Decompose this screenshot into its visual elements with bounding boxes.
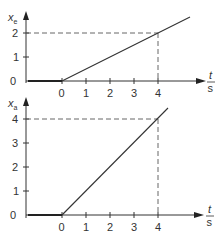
x-tick-label: 0 xyxy=(59,221,65,233)
series-ramp-xa xyxy=(62,108,168,215)
x-tick-label: 0 xyxy=(59,87,65,99)
y-tick-label: 2 xyxy=(12,27,18,39)
chart-bottom: 0 1 2 3 4 0 1 2 3 4 xa t s xyxy=(7,97,214,233)
x-tick-label: 2 xyxy=(107,221,113,233)
y-axis-arrow-icon xyxy=(23,11,29,20)
y-tick-label: 2 xyxy=(12,161,18,173)
x-tick-label: 4 xyxy=(155,87,161,99)
x-tick-label: 4 xyxy=(155,221,161,233)
chart-top: 0 1 2 0 1 2 3 4 xe t s xyxy=(7,11,215,99)
x-axis-label-den: s xyxy=(208,82,214,94)
x-axis-label-num: t xyxy=(208,203,212,215)
y-tick-label: 3 xyxy=(12,137,18,149)
y-axis-arrow-icon xyxy=(23,97,29,106)
y-axis-label-top: xe xyxy=(7,11,18,25)
y-tick-label: 0 xyxy=(10,209,16,221)
diagram-canvas: 0 1 2 0 1 2 3 4 xe t s xyxy=(0,0,224,247)
x-axis-label-num: t xyxy=(209,69,213,81)
x-axis-label-den: s xyxy=(207,216,213,228)
y-axis-label-bottom: xa xyxy=(7,97,18,111)
y-tick-label: 0 xyxy=(10,75,16,87)
y-tick-label: 4 xyxy=(12,113,18,125)
x-axis-arrow-icon xyxy=(194,212,204,218)
x-tick-label: 2 xyxy=(107,87,113,99)
x-tick-label: 1 xyxy=(83,221,89,233)
x-tick-label: 3 xyxy=(131,87,137,99)
series-ramp-xe xyxy=(62,17,190,81)
x-tick-label: 1 xyxy=(83,87,89,99)
x-tick-label: 3 xyxy=(131,221,137,233)
y-tick-label: 1 xyxy=(13,185,19,197)
x-axis-arrow-icon xyxy=(196,78,206,84)
y-tick-label: 1 xyxy=(13,51,19,63)
